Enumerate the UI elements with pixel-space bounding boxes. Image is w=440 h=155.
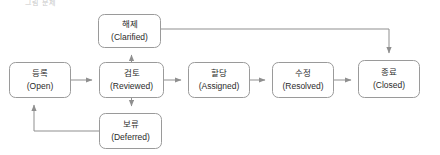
node-deferred[interactable]: 보류 (Deferred) [100, 114, 162, 149]
node-open-label-en: (Open) [27, 81, 54, 91]
node-deferred-label-en: (Deferred) [111, 132, 150, 142]
node-clarified-label-en: (Clarified) [111, 32, 148, 42]
node-resolved-label-ko: 수정 [295, 68, 311, 78]
node-resolved-label-en: (Resolved) [282, 81, 323, 91]
node-closed-label-en: (Closed) [373, 80, 405, 90]
node-reviewed-label-ko: 검토 [124, 68, 140, 78]
node-reviewed-label-en: (Reviewed) [110, 81, 153, 91]
node-assigned[interactable]: 할당 (Assigned) [189, 63, 250, 98]
state-flow-diagram: 해제 (Clarified) 등록 (Open) 검토 (Reviewed) 할… [0, 0, 440, 155]
edge-clarified-to-closed [161, 29, 389, 53]
node-open[interactable]: 등록 (Open) [10, 63, 71, 98]
edge-deferred-to-open [34, 105, 99, 131]
node-deferred-label-ko: 보류 [123, 119, 139, 129]
node-open-label-ko: 등록 [32, 68, 48, 78]
node-reviewed[interactable]: 검토 (Reviewed) [100, 63, 164, 98]
node-resolved[interactable]: 수정 (Resolved) [273, 63, 334, 98]
node-clarified[interactable]: 해제 (Clarified) [99, 15, 161, 48]
node-assigned-label-ko: 할당 [211, 68, 227, 78]
diagram-canvas: 그림 문제 해제 (Clarified) [0, 0, 440, 155]
node-closed-label-ko: 종료 [381, 67, 397, 77]
node-closed[interactable]: 종료 (Closed) [359, 61, 420, 98]
node-assigned-label-en: (Assigned) [199, 81, 240, 91]
node-clarified-label-ko: 해제 [122, 19, 138, 29]
